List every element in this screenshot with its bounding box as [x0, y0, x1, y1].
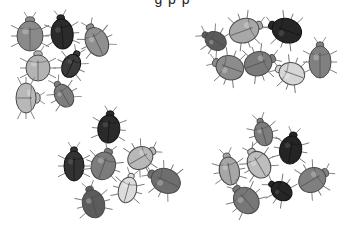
- beetle-illustration: g p p: [0, 0, 345, 228]
- cluster-bottom-right: [0, 0, 345, 228]
